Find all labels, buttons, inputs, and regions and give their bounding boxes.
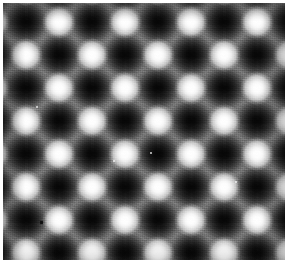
bright-speck (150, 152, 152, 154)
micrograph-canvas (0, 0, 288, 265)
frame-edge-vignette (3, 3, 285, 260)
bright-speck (235, 181, 237, 183)
bright-speck (36, 106, 38, 108)
bright-speck (113, 160, 115, 162)
dark-point-defect (40, 221, 43, 224)
scan-frame (3, 3, 285, 260)
